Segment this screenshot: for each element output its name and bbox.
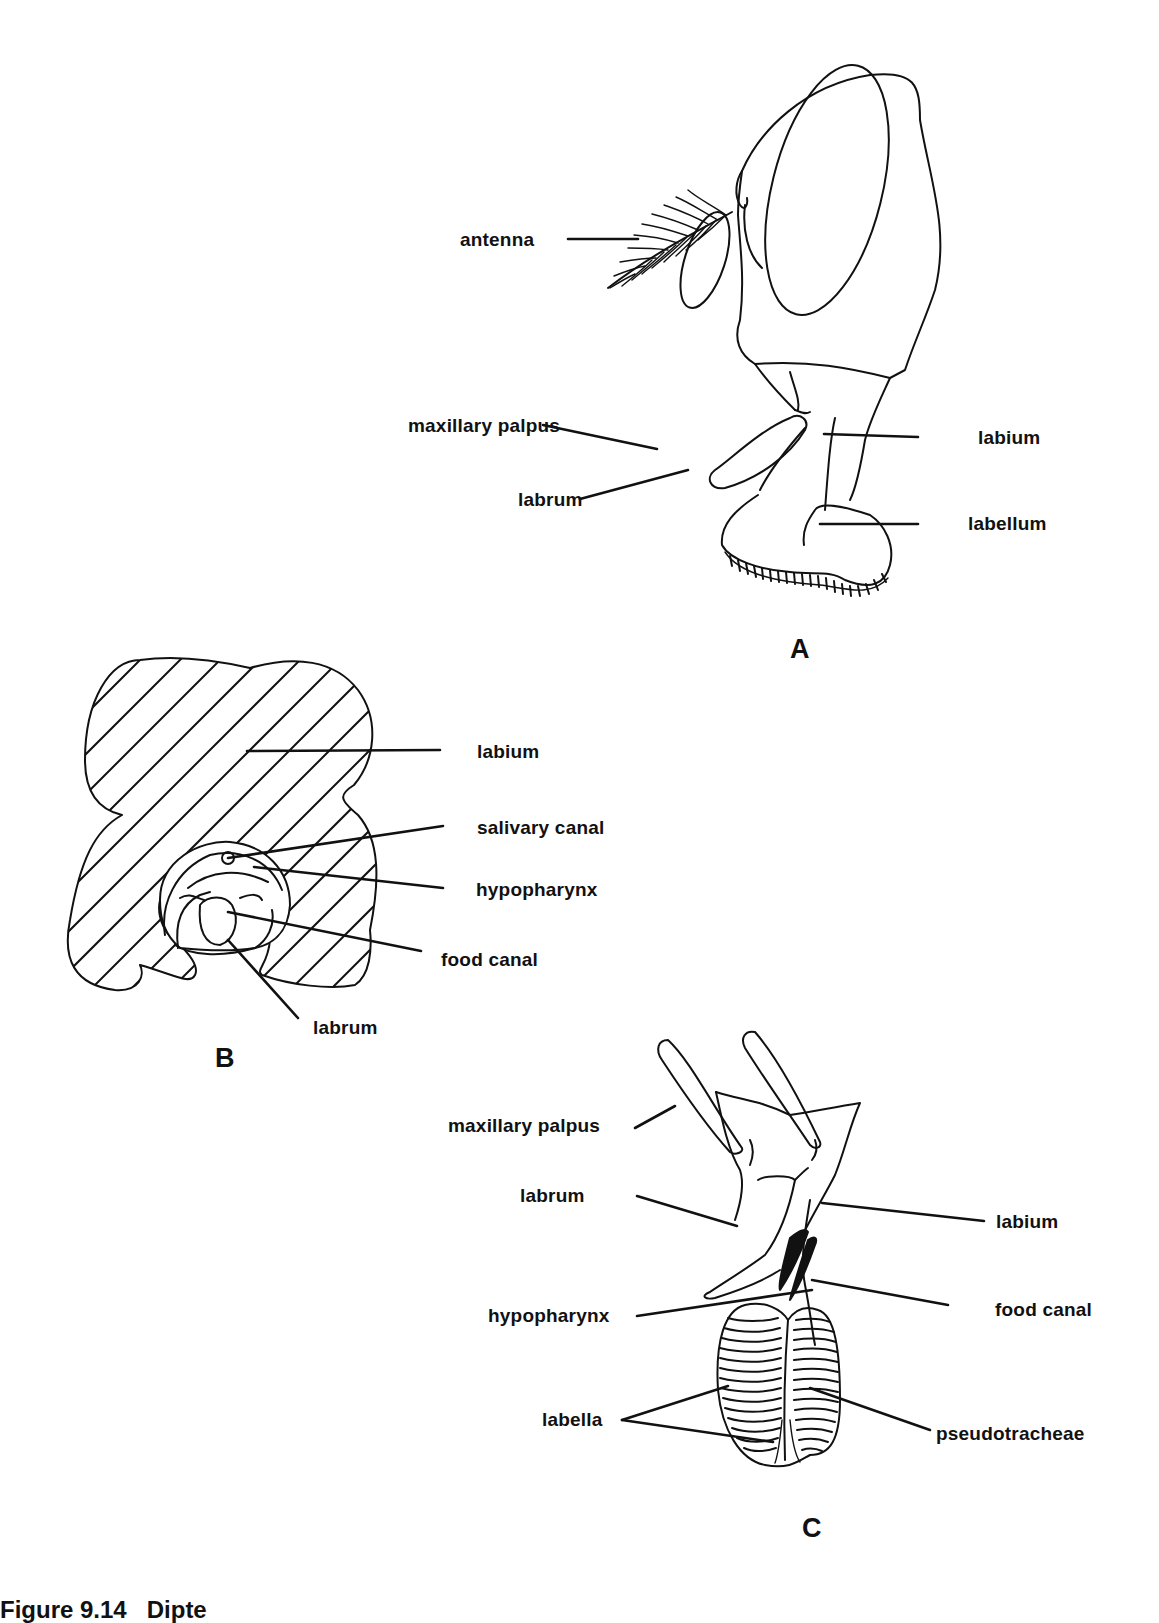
caption-number: Figure 9.14 <box>0 1596 127 1623</box>
label-a-labrum: labrum <box>518 490 583 509</box>
label-a-labellum: labellum <box>968 514 1047 533</box>
panel-a-drawing <box>543 52 940 596</box>
label-b-labium: labium <box>477 742 539 761</box>
panel-b-drawing <box>40 600 480 1020</box>
label-b-salivary-canal: salivary canal <box>477 818 604 837</box>
panel-label-b: B <box>215 1045 235 1072</box>
panel-label-a: A <box>790 636 810 663</box>
label-a-antenna: antenna <box>460 230 534 249</box>
label-c-labella: labella <box>542 1410 603 1429</box>
panel-label-c: C <box>802 1515 822 1542</box>
figure-caption: Figure 9.14Dipte <box>0 1598 207 1622</box>
label-a-labium: labium <box>978 428 1040 447</box>
label-b-hypopharynx: hypopharynx <box>476 880 598 899</box>
caption-text: Dipte <box>147 1596 207 1623</box>
panel-c-drawing <box>622 1032 984 1467</box>
label-b-food-canal: food canal <box>441 950 538 969</box>
label-c-maxillary-palpus: maxillary palpus <box>448 1116 600 1135</box>
label-c-pseudotracheae: pseudotracheae <box>936 1424 1085 1443</box>
label-b-labrum: labrum <box>313 1018 378 1037</box>
label-c-hypopharynx: hypopharynx <box>488 1306 610 1325</box>
label-c-labrum: labrum <box>520 1186 585 1205</box>
label-c-labium: labium <box>996 1212 1058 1231</box>
label-a-maxillary-palpus: maxillary palpus <box>408 416 560 435</box>
label-c-food-canal: food canal <box>995 1300 1092 1319</box>
